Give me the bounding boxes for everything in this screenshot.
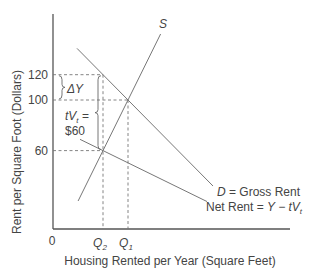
x-tick-label-q1: Q1 [119, 236, 133, 252]
annotation-tax-eq: = [79, 109, 89, 123]
x-tick-label-q2-main: Q [93, 236, 102, 250]
series-label-net-rent: Net Rent = Y − tVt [206, 200, 303, 216]
y-tick-label: 60 [35, 144, 49, 158]
annotation-tax-line2: $60 [65, 124, 85, 138]
series-label-net-rent-formula: Y − tV [267, 200, 301, 214]
x-tick-label-q1-main: Q [119, 236, 128, 250]
y-axis-title: Rent per Square Foot (Dollars) [10, 70, 24, 234]
series-label-net-rent-sub: t [300, 207, 303, 216]
y-tick-label: 120 [28, 68, 48, 82]
series-line-demand [77, 48, 213, 186]
x-tick-label-q2: Q2 [93, 236, 107, 252]
x-tick-label-q2-sub: 2 [101, 243, 107, 252]
series-line-supply [78, 34, 161, 201]
annotation-tax-line1: tVt = [65, 109, 89, 125]
chart: 120 100 60 0 Q2 Q1 Housing Rented per Ye… [0, 0, 310, 273]
series-label-net-rent-text: Net Rent = [206, 200, 267, 214]
origin-label: 0 [49, 234, 56, 248]
x-tick-label-q1-sub: 1 [128, 243, 132, 252]
series-label-supply: S [159, 17, 167, 31]
x-axis-title: Housing Rented per Year (Square Feet) [64, 254, 275, 268]
series-label-demand: D = Gross Rent [217, 185, 301, 199]
series-label-demand-letter: D [217, 185, 226, 199]
annotation-delta-y: ΔY [66, 82, 84, 96]
brace-delta-y [59, 76, 65, 99]
series-label-demand-text: = Gross Rent [226, 185, 301, 199]
y-tick-label: 100 [28, 93, 48, 107]
brace-tax [95, 76, 101, 150]
